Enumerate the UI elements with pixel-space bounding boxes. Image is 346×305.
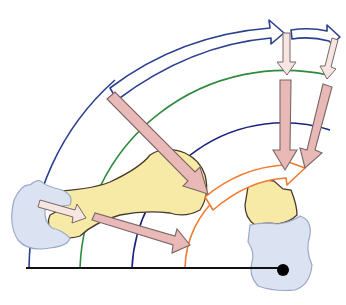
right-cartilage — [248, 216, 312, 291]
right-bone-block — [245, 180, 297, 225]
force-diagram — [0, 0, 346, 305]
vertical-force-arrow-1 — [273, 80, 297, 170]
lower-force-arrow — [92, 213, 190, 253]
light-arrow-2 — [320, 38, 338, 79]
vertical-force-arrow-2 — [300, 84, 332, 168]
pivot-dot — [277, 264, 289, 276]
outer-curved-arrow-1 — [110, 20, 284, 100]
